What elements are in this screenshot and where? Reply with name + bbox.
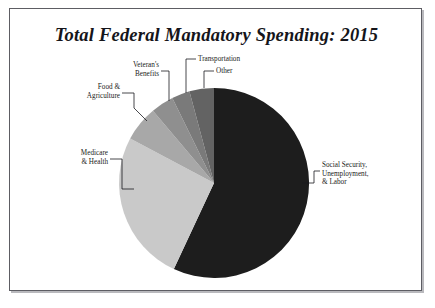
pie-label-social-security: Social Security, Unemployment, & Labor [322, 161, 418, 187]
pie-label-medicare: Medicare & Health [48, 149, 108, 166]
figure-frame: Total Federal Mandatory Spending: 2015 [9, 8, 422, 291]
pie-label-transportation: Transportation [198, 55, 268, 64]
pie-label-other: Other [216, 67, 260, 76]
leader-line-transportation [186, 59, 196, 93]
pie-label-food-agriculture: Food & Agriculture [62, 83, 120, 100]
leader-line-food-agriculture [122, 93, 147, 121]
pie-label-veterans-benefits: Veteran's Benefits [103, 61, 159, 78]
pie-chart: Social Security, Unemployment, & Labor M… [10, 9, 423, 292]
leader-line-other [204, 71, 214, 88]
chart-page: Total Federal Mandatory Spending: 2015 [0, 0, 435, 308]
leader-line-veterans-benefits [161, 71, 169, 101]
